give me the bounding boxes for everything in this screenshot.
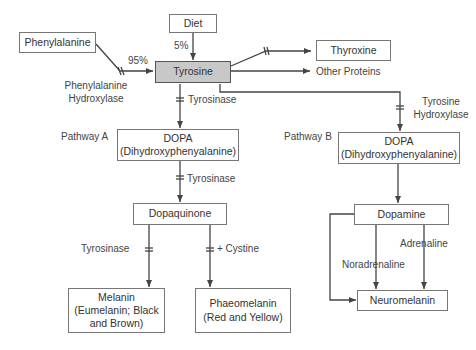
label-tyrosinase-2: Tyrosinase — [187, 173, 235, 186]
node-dopamine-label: Dopamine — [378, 208, 426, 221]
label-tyrosine-hydroxylase-line1: Tyrosine — [406, 96, 476, 109]
label-phenylalanine-hydroxylase-line1: Phenylalanine — [56, 80, 136, 93]
node-thyroxine-label: Thyroxine — [330, 44, 376, 57]
node-tyrosine: Tyrosine — [155, 61, 231, 83]
node-phaeomelanin: Phaeomelanin (Red and Yellow) — [195, 288, 291, 333]
label-tyrosinase-3: Tyrosinase — [81, 243, 129, 256]
node-diet-label: Diet — [184, 17, 203, 30]
node-melanin: Melanin (Eumelanin; Black and Brown) — [68, 288, 165, 333]
label-cystine: + Cystine — [217, 243, 259, 256]
node-dopa-b: DOPA (Dihydroxyphenyalanine) — [338, 132, 460, 164]
node-dopaquinone: Dopaquinone — [133, 203, 227, 225]
arrow-tyrosine-thyroxine — [231, 51, 311, 66]
label-phenylalanine-hydroxylase: Phenylalanine Hydroxylase — [56, 80, 136, 105]
node-melanin-line1: Melanin — [98, 291, 135, 304]
node-melanin-line3: and Brown) — [90, 317, 144, 330]
label-tyrosinase-1: Tyrosinase — [188, 94, 236, 107]
node-neuromelanin: Neuromelanin — [357, 290, 448, 311]
label-pathway-a: Pathway A — [61, 131, 108, 144]
label-tyrosine-hydroxylase: Tyrosine Hydroxylase — [406, 96, 476, 121]
node-other-proteins: Other Proteins — [316, 66, 380, 79]
node-neuromelanin-label: Neuromelanin — [370, 294, 435, 307]
arrow-tyrosine-dopa-b — [220, 84, 400, 131]
node-phenylalanine: Phenylalanine — [19, 32, 96, 53]
node-dopaquinone-label: Dopaquinone — [149, 207, 211, 220]
node-phaeomelanin-line2: (Red and Yellow) — [203, 311, 282, 324]
label-diet-percent: 5% — [174, 40, 188, 53]
node-dopa-a: DOPA (Dihydroxyphenyalanine) — [117, 129, 239, 161]
node-dopa-a-line2: (Dihydroxyphenyalanine) — [120, 145, 236, 158]
node-phenylalanine-label: Phenylalanine — [25, 36, 91, 49]
node-dopa-b-line2: (Dihydroxyphenyalanine) — [341, 148, 457, 161]
label-tyrosine-hydroxylase-line2: Hydroxylase — [406, 109, 476, 122]
node-dopamine: Dopamine — [354, 204, 449, 225]
node-diet: Diet — [169, 14, 217, 33]
node-thyroxine: Thyroxine — [316, 40, 391, 61]
node-dopa-b-line1: DOPA — [385, 135, 414, 148]
node-melanin-line2: (Eumelanin; Black — [74, 304, 159, 317]
node-dopa-a-line1: DOPA — [164, 132, 193, 145]
node-tyrosine-label: Tyrosine — [173, 65, 213, 78]
node-phaeomelanin-line1: Phaeomelanin — [209, 297, 276, 310]
label-adrenaline: Adrenaline — [400, 238, 448, 251]
label-phenylalanine-percent: 95% — [128, 55, 148, 68]
label-phenylalanine-hydroxylase-line2: Hydroxylase — [56, 93, 136, 106]
label-pathway-b: Pathway B — [284, 131, 332, 144]
label-noradrenaline: Noradrenaline — [342, 259, 405, 272]
arrow-dopamine-neuromelanin-direct — [330, 214, 356, 300]
